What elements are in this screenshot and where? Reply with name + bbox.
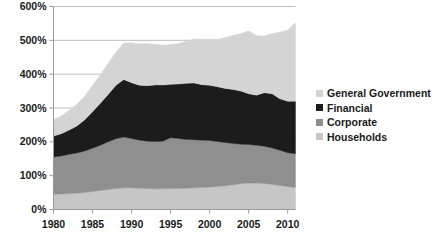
x-axis-label-1995: 1995 [159, 218, 183, 230]
x-axis-label-2000: 2000 [198, 218, 222, 230]
legend-item-corporate[interactable]: Corporate [316, 115, 443, 130]
legend-swatch-corporate [316, 119, 323, 126]
x-axis-label-1985: 1985 [81, 218, 105, 230]
legend-swatch-financial [316, 104, 323, 111]
chart-legend: General Government Financial Corporate H… [316, 86, 443, 144]
x-axis-label-2005: 2005 [237, 218, 261, 230]
y-axis-label-400: 400% [20, 68, 48, 80]
legend-item-general-government[interactable]: General Government [316, 86, 443, 101]
y-axis-label-600: 600% [20, 0, 48, 12]
legend-swatch-general-government [316, 90, 323, 97]
legend-label-general-government: General Government [327, 88, 431, 99]
legend-label-financial: Financial [327, 103, 373, 114]
y-axis-label-500: 500% [20, 34, 48, 46]
y-axis-label-0: 0% [31, 203, 47, 215]
legend-label-households: Households [327, 132, 387, 143]
x-axis-label-1980: 1980 [42, 218, 66, 230]
y-axis-label-300: 300% [20, 102, 48, 114]
y-axis-label-100: 100% [20, 169, 48, 181]
legend-label-corporate: Corporate [327, 117, 377, 128]
legend-item-financial[interactable]: Financial [316, 101, 443, 116]
x-axis-label-1990: 1990 [120, 218, 144, 230]
legend-item-households[interactable]: Households [316, 130, 443, 145]
legend-swatch-households [316, 133, 323, 140]
chart-root: 0%100%200%300%400%500%600%19801985199019… [0, 0, 443, 242]
x-axis-label-2010: 2010 [276, 218, 300, 230]
y-axis-label-200: 200% [20, 135, 48, 147]
